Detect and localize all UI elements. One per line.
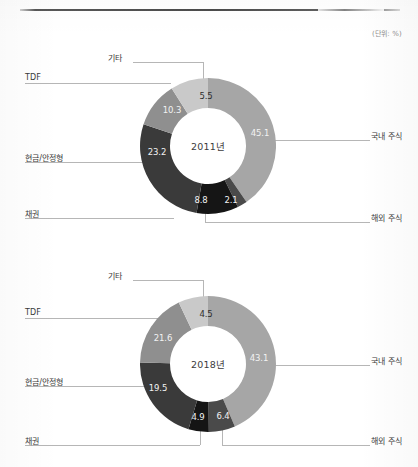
- leader-line-overseas: [222, 445, 370, 446]
- donut-svg-2011: [140, 78, 276, 214]
- callout-label-cash: 현금/안정형: [25, 376, 63, 387]
- donut-chart-2011: 기타 TDF 현금/안정형 채권 국내 주식 해외 주식 45.1 2.1: [0, 40, 418, 252]
- leader-line-bond: [25, 445, 200, 446]
- callout-label-bond: 채권: [25, 208, 39, 219]
- donut-chart-2018: 기타 TDF 현금/안정형 채권 국내 주식 해외 주식 43.1 6.4: [0, 258, 418, 467]
- callout-label-tdf: TDF: [25, 308, 41, 317]
- donut-svg-2018: [140, 296, 276, 432]
- unit-note: (단위: %): [372, 28, 402, 38]
- callout-label-bond: 채권: [25, 435, 39, 446]
- callout-label-tdf: TDF: [25, 73, 41, 82]
- leader-line-bond-drop: [200, 430, 201, 445]
- slice-cash: [140, 363, 197, 430]
- leader-line-etc: [133, 280, 204, 281]
- leader-line-overseas: [205, 222, 370, 223]
- callout-label-etc: 기타: [108, 52, 122, 63]
- leader-line-etc: [133, 62, 204, 63]
- donut-ring-2011: 45.1 2.1 8.8 23.2 10.3 5.5 2011년: [140, 78, 276, 214]
- callout-label-overseas: 해외 주식: [371, 212, 402, 223]
- callout-label-domestic: 국내 주식: [371, 355, 402, 366]
- callout-label-domestic: 국내 주식: [371, 130, 402, 141]
- leader-line-overseas-drop: [222, 430, 223, 445]
- callout-label-overseas: 해외 주식: [371, 435, 402, 446]
- scan-artifact: [318, 8, 384, 11]
- callout-label-etc: 기타: [108, 270, 122, 281]
- leader-line-bond: [25, 218, 174, 219]
- donut-ring-2018: 43.1 6.4 4.9 19.5 21.6 4.5 2018년: [140, 296, 276, 432]
- callout-label-cash: 현금/안정형: [25, 152, 63, 163]
- slice-cash: [140, 124, 202, 213]
